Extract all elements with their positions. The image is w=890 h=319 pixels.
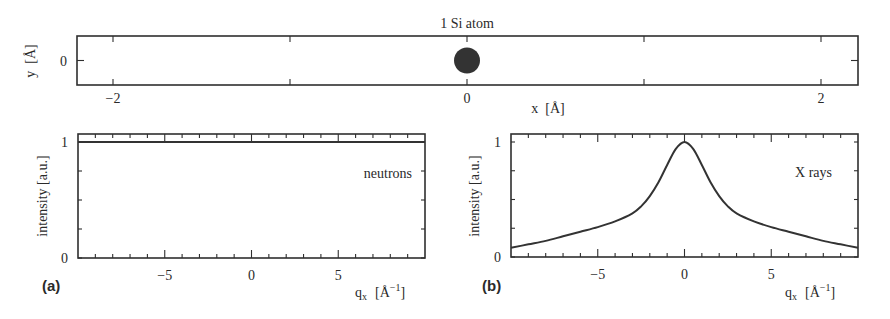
panel-a-xlabel-unit: [Å [375,285,391,300]
top-y-tick-label: 0 [60,54,67,69]
panel-a-x-tick-label: 5 [335,268,342,283]
panel-b: −50501 X rays intensity [a.u.] (b) qx[Å−… [467,134,858,302]
top-points [454,48,480,74]
top-x-tick-label: −2 [106,91,121,106]
panel-b-series-line [511,142,858,248]
panel-b-y-tick-label: 0 [494,250,501,265]
figure: 1 Si atom −2020 x [Å] y [Å] −50501 neutr… [0,0,890,319]
top-x-tick-label: 2 [818,91,825,106]
panel-a-x-tick-label: −5 [157,268,172,283]
panel-a-frame [78,134,425,258]
panel-b-xlabel-unit: [Å [805,285,821,300]
top-panel: 1 Si atom −2020 x [Å] y [Å] [23,16,858,116]
panel-a-x-tick-label: 0 [248,268,255,283]
si-atom-point [454,48,480,74]
top-y-axis-label: y [Å] [23,44,38,77]
panel-a-ticks: −50501 [61,134,425,283]
panel-b-xlabel-close: ] [830,285,835,300]
panel-b-annotation: X rays [795,165,832,180]
panel-a-annotation: neutrons [364,166,412,181]
panel-a-xlabel-q: q [355,285,362,300]
panel-a: −50501 neutrons intensity [a.u.] (a) qx[… [35,134,425,302]
top-ticks: −2020 [60,36,858,106]
panel-a-xlabel-sup: −1 [390,282,401,293]
panel-a-y-axis-label: intensity [a.u.] [35,155,50,236]
panel-b-ticks: −50501 [494,134,858,282]
panel-a-x-axis-label: qx[Å−1] [355,282,405,302]
panel-b-x-axis-label: qx[Å−1] [785,282,835,302]
panel-b-xlabel-sub: x [792,291,797,302]
panel-a-xlabel-sub: x [362,291,367,302]
panel-b-label: (b) [482,277,501,294]
panel-b-frame [511,134,858,257]
top-title: 1 Si atom [440,16,494,31]
top-x-axis-label: x [Å] [531,101,564,116]
panel-b-xlabel-sup: −1 [820,282,831,293]
top-x-tick-label: 0 [464,91,471,106]
panel-b-x-tick-label: 0 [681,267,688,282]
panel-b-y-tick-label: 1 [494,135,501,150]
panel-b-y-axis-label: intensity [a.u.] [467,155,482,236]
panel-b-x-tick-label: −5 [590,267,605,282]
panel-a-xlabel-close: ] [400,285,405,300]
panel-a-y-tick-label: 0 [61,251,68,266]
panel-a-label: (a) [42,277,60,294]
panel-b-series [511,142,858,248]
panel-b-x-tick-label: 5 [768,267,775,282]
panel-b-xlabel-q: q [785,285,792,300]
panel-a-y-tick-label: 1 [61,135,68,150]
